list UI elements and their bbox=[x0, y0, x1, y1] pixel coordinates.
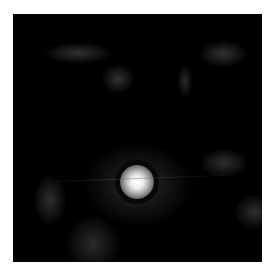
bright-spot bbox=[120, 165, 154, 199]
faint-blob bbox=[177, 64, 193, 98]
faint-blob bbox=[101, 64, 135, 94]
faint-blob bbox=[233, 194, 262, 230]
faint-blob bbox=[43, 42, 113, 64]
faint-blob bbox=[198, 40, 248, 68]
image-frame bbox=[13, 14, 262, 262]
